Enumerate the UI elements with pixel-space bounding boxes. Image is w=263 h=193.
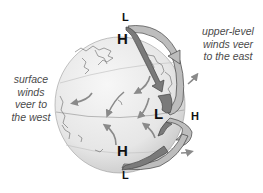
- caption-line: veer to: [0, 98, 62, 111]
- surface-winds-caption: surface winds veer to the west: [0, 73, 62, 123]
- pressure-label-low-top: L: [122, 12, 129, 23]
- pressure-label-low-equator: L: [154, 106, 163, 121]
- pressure-label-high-south: H: [117, 143, 128, 158]
- caption-line: winds veer: [192, 38, 263, 51]
- global-winds-diagram: L H L H H L upper-level winds veer to th…: [0, 0, 263, 193]
- surface-arrow-icon: [188, 76, 196, 84]
- surface-arrow-icon: [181, 152, 190, 153]
- caption-line: the west: [0, 111, 62, 124]
- caption-line: upper-level: [192, 25, 263, 38]
- pressure-label-low-bottom: L: [122, 170, 129, 181]
- pressure-label-high-equator: H: [191, 111, 199, 122]
- upper-level-winds-caption: upper-level winds veer to the east: [192, 25, 263, 63]
- caption-line: winds: [0, 86, 62, 99]
- caption-line: surface: [0, 73, 62, 86]
- caption-line: to the east: [192, 50, 263, 63]
- pressure-label-high-top: H: [117, 31, 128, 46]
